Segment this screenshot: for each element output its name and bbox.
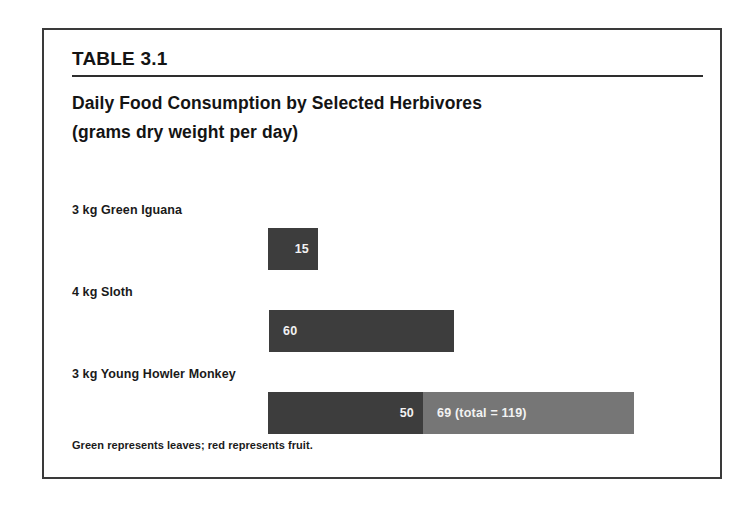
bar-value-label: 60 [269, 324, 297, 338]
bar-track: 60 [72, 310, 700, 352]
chart-row: 3 kg Green Iguana 15 [72, 202, 700, 270]
chart-row: 3 kg Young Howler Monkey 50 69 (total = … [72, 366, 700, 434]
bar-track: 15 [72, 228, 700, 270]
bar-category-label: 3 kg Young Howler Monkey [72, 366, 700, 382]
bar-value-total-label: 69 (total = 119) [423, 406, 527, 420]
bar-segment-leaves[interactable]: 60 [269, 310, 454, 352]
footnote-block: Green represents leaves; red represents … [72, 438, 700, 453]
bar-group: 15 [268, 228, 318, 270]
table-number-label: TABLE 3.1 [72, 46, 700, 72]
table-subtitle: (grams dry weight per day) [72, 118, 700, 147]
bar-group: 50 69 (total = 119) [268, 392, 634, 434]
bar-track: 50 69 (total = 119) [72, 392, 700, 434]
bar-group: 60 [269, 310, 454, 352]
chart-row: 4 kg Sloth 60 [72, 284, 700, 352]
table-content: TABLE 3.1 Daily Food Consumption by Sele… [72, 46, 700, 467]
bar-category-label: 4 kg Sloth [72, 284, 700, 300]
chart-footnote: Green represents leaves; red represents … [72, 438, 700, 453]
bar-segment-fruit[interactable]: 69 (total = 119) [423, 392, 634, 434]
bar-chart: 3 kg Green Iguana 15 4 kg Sloth 60 [72, 202, 700, 448]
bar-segment-leaves[interactable]: 50 [268, 392, 423, 434]
header-divider [72, 75, 703, 77]
table-title: Daily Food Consumption by Selected Herbi… [72, 89, 700, 118]
bar-value-label: 50 [400, 406, 423, 420]
bar-segment-leaves[interactable]: 15 [268, 228, 318, 270]
table-frame: TABLE 3.1 Daily Food Consumption by Sele… [42, 28, 722, 479]
bar-category-label: 3 kg Green Iguana [72, 202, 700, 218]
bar-value-label: 15 [295, 242, 318, 256]
